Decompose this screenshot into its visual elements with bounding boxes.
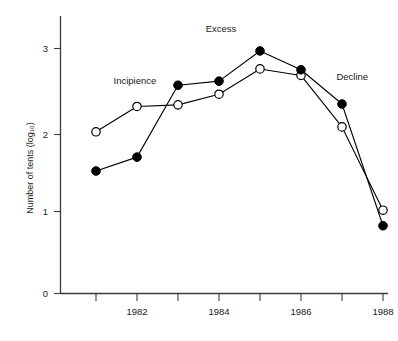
chart-annotations: IncipienceExcessDecline bbox=[114, 23, 369, 86]
y-tick-label-3: 3 bbox=[43, 43, 48, 54]
x-tick-label-1988: 1988 bbox=[372, 306, 393, 317]
data-point-open-circles-1988 bbox=[379, 206, 387, 214]
y-tick-label-2: 2 bbox=[43, 129, 48, 140]
y-axis-ticks bbox=[54, 49, 61, 294]
data-point-filled-circles-1981 bbox=[92, 167, 101, 176]
x-tick-label-1982: 1982 bbox=[126, 306, 147, 317]
x-axis-ticks bbox=[96, 294, 383, 302]
annotation-decline: Decline bbox=[336, 71, 368, 82]
data-point-open-circles-1984 bbox=[215, 90, 223, 98]
series-line-open-circles bbox=[96, 69, 383, 210]
data-point-open-circles-1985 bbox=[256, 65, 264, 73]
data-point-filled-circles-1982 bbox=[133, 153, 142, 162]
line-chart-plot: 0 1 2 3 Number of tents (log₁₀) 1982 198… bbox=[0, 0, 398, 341]
data-point-open-circles-1982 bbox=[133, 102, 141, 110]
annotation-excess: Excess bbox=[206, 23, 237, 34]
data-point-open-circles-1987 bbox=[338, 123, 346, 131]
data-point-open-circles-1983 bbox=[174, 101, 182, 109]
data-point-filled-circles-1983 bbox=[174, 81, 183, 90]
series-markers-open-circles bbox=[92, 65, 387, 215]
y-axis-title: Number of tents (log₁₀) bbox=[25, 122, 35, 213]
data-point-open-circles-1981 bbox=[92, 128, 100, 136]
data-point-filled-circles-1987 bbox=[338, 100, 347, 109]
x-tick-label-1986: 1986 bbox=[290, 306, 311, 317]
data-point-filled-circles-1985 bbox=[256, 47, 265, 56]
y-tick-label-1: 1 bbox=[43, 206, 48, 217]
data-point-filled-circles-1984 bbox=[215, 77, 224, 86]
annotation-incipience: Incipience bbox=[114, 75, 157, 86]
data-point-filled-circles-1986 bbox=[297, 65, 306, 74]
data-point-filled-circles-1988 bbox=[379, 221, 388, 230]
chart-figure: 0 1 2 3 Number of tents (log₁₀) 1982 198… bbox=[0, 0, 398, 341]
y-tick-label-0: 0 bbox=[43, 288, 48, 299]
x-tick-label-1984: 1984 bbox=[208, 306, 229, 317]
